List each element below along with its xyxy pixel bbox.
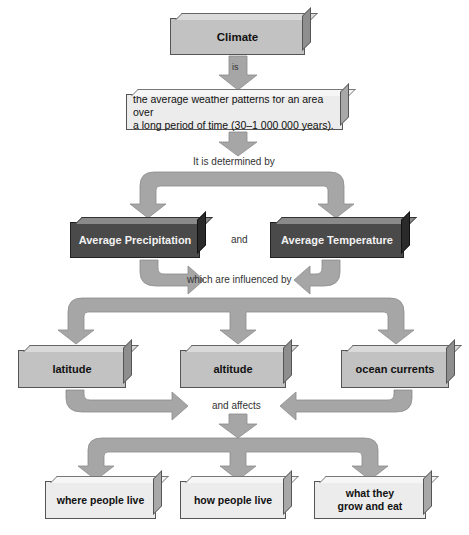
arrow-ocean-out bbox=[280, 390, 412, 420]
effect-label-3-line-2: grow and eat bbox=[338, 500, 403, 513]
box-top-face bbox=[75, 217, 213, 224]
precipitation-label: Average Precipitation bbox=[79, 234, 192, 246]
box-top-face bbox=[131, 89, 356, 96]
node-ocean-currents: ocean currents bbox=[341, 350, 449, 388]
connector-and-label: and bbox=[231, 234, 248, 245]
arrow-affects bbox=[219, 414, 257, 438]
flow-arrows bbox=[0, 0, 469, 535]
node-climate: Climate bbox=[170, 18, 305, 55]
definition-line-2: a long period of time (30–1 000 000 year… bbox=[133, 119, 342, 132]
box-top-face bbox=[319, 476, 439, 483]
node-how-people-live: how people live bbox=[180, 481, 286, 519]
definition-line-1: the average weather patterns for an area… bbox=[133, 93, 342, 119]
arrow-bracket-influences bbox=[58, 298, 414, 344]
connector-affects-label: and affects bbox=[212, 400, 261, 411]
node-average-temperature: Average Temperature bbox=[270, 222, 404, 258]
box-top-face bbox=[275, 217, 417, 224]
effect-label-2: how people live bbox=[194, 494, 272, 506]
node-altitude: altitude bbox=[180, 350, 286, 388]
connector-is-label: is bbox=[232, 62, 239, 72]
arrow-latitude-out bbox=[66, 390, 188, 420]
node-what-they-grow-and-eat: what they grow and eat bbox=[314, 481, 426, 519]
box-top-face bbox=[185, 476, 299, 483]
definition-text: the average weather patterns for an area… bbox=[133, 93, 342, 132]
arrow-bracket-effects bbox=[78, 438, 388, 480]
ocean-currents-label: ocean currents bbox=[356, 363, 435, 375]
arrow-temp-out bbox=[294, 260, 340, 294]
box-top-face bbox=[185, 345, 299, 352]
box-top-face bbox=[346, 345, 462, 352]
node-average-precipitation: Average Precipitation bbox=[70, 222, 200, 258]
arrow-bracket-determinants bbox=[130, 172, 354, 218]
box-top-face bbox=[175, 13, 318, 20]
node-definition: the average weather patterns for an area… bbox=[126, 94, 343, 130]
effect-label-3: what they grow and eat bbox=[338, 487, 403, 513]
node-where-people-live: where people live bbox=[45, 481, 156, 519]
box-top-face bbox=[23, 345, 139, 352]
connector-determined-label: It is determined by bbox=[193, 156, 275, 167]
effect-label-3-line-1: what they bbox=[338, 487, 403, 500]
box-top-face bbox=[50, 476, 169, 483]
temperature-label: Average Temperature bbox=[281, 234, 393, 246]
climate-label: Climate bbox=[217, 31, 259, 43]
altitude-label: altitude bbox=[213, 363, 252, 375]
arrow-determined bbox=[219, 132, 257, 156]
connector-influenced-label: which are influenced by bbox=[187, 274, 292, 285]
effect-label-1: where people live bbox=[57, 494, 145, 506]
node-latitude: latitude bbox=[18, 350, 126, 388]
latitude-label: latitude bbox=[52, 363, 91, 375]
